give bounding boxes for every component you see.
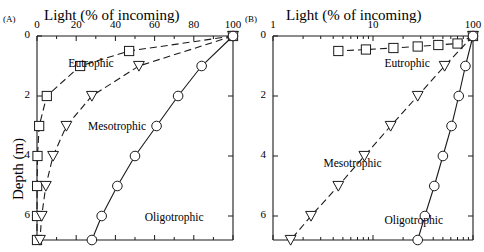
xtick-label: 0 bbox=[34, 18, 40, 30]
data-point-eutrophic bbox=[33, 181, 42, 190]
data-point-oligotrophic bbox=[429, 181, 439, 191]
data-point-oligotrophic bbox=[461, 61, 471, 71]
data-point-mesotrophic bbox=[48, 151, 59, 161]
xtick-label: 10 bbox=[368, 18, 379, 30]
data-point-eutrophic bbox=[434, 40, 443, 49]
figure-root: (A) Light (% of incoming) Depth (m) 0204… bbox=[0, 0, 484, 252]
data-point-oligotrophic bbox=[87, 235, 97, 245]
data-point-oligotrophic bbox=[454, 91, 464, 101]
data-point-oligotrophic bbox=[468, 31, 478, 41]
panel-a: (A) Light (% of incoming) Depth (m) 0204… bbox=[0, 0, 242, 252]
ytick-label: 2 bbox=[261, 88, 267, 100]
ytick-label: 0 bbox=[25, 28, 31, 40]
curve-label-oligotrophic: Oligotrophic bbox=[145, 211, 204, 223]
ytick-label: 2 bbox=[25, 88, 31, 100]
curve-label-oligotrophic: Oligotrophic bbox=[384, 214, 443, 226]
data-point-oligotrophic bbox=[438, 151, 448, 161]
ytick-label: 6 bbox=[261, 208, 267, 220]
data-point-mesotrophic bbox=[61, 121, 72, 131]
panel-b-plot bbox=[242, 0, 484, 252]
data-point-eutrophic bbox=[334, 46, 343, 55]
data-point-eutrophic bbox=[389, 43, 398, 52]
ytick-label: 4 bbox=[261, 148, 267, 160]
data-point-oligotrophic bbox=[173, 91, 183, 101]
data-point-eutrophic bbox=[125, 46, 134, 55]
curve-label-mesotrophic: Mesotrophic bbox=[88, 120, 146, 132]
data-point-oligotrophic bbox=[447, 121, 457, 131]
data-point-oligotrophic bbox=[197, 61, 207, 71]
data-point-oligotrophic bbox=[113, 181, 123, 191]
data-point-oligotrophic bbox=[97, 211, 107, 221]
curve-label-eutrophic: Eutrophic bbox=[68, 57, 113, 69]
data-point-mesotrophic bbox=[333, 181, 344, 191]
data-point-oligotrophic bbox=[130, 151, 140, 161]
xtick-label: 80 bbox=[188, 18, 199, 30]
data-point-oligotrophic bbox=[152, 121, 162, 131]
panel-b: (B) Light (% of incoming) 1101000246Eutr… bbox=[242, 0, 484, 252]
data-point-eutrophic bbox=[33, 151, 42, 160]
ytick-label: 4 bbox=[25, 148, 31, 160]
data-point-oligotrophic bbox=[413, 235, 423, 245]
xtick-label: 20 bbox=[71, 18, 82, 30]
xtick-label: 100 bbox=[465, 18, 482, 30]
ytick-label: 6 bbox=[25, 208, 31, 220]
data-point-eutrophic bbox=[453, 39, 462, 48]
data-point-eutrophic bbox=[361, 45, 370, 54]
xtick-label: 100 bbox=[225, 18, 242, 30]
data-point-eutrophic bbox=[35, 121, 44, 130]
xtick-label: 40 bbox=[110, 18, 121, 30]
ytick-label: 0 bbox=[261, 28, 267, 40]
xtick-label: 1 bbox=[270, 18, 276, 30]
data-point-mesotrophic bbox=[134, 61, 145, 71]
curve-label-mesotrophic: Mesotrophic bbox=[324, 157, 382, 169]
data-point-oligotrophic bbox=[228, 31, 238, 41]
data-point-mesotrophic bbox=[412, 91, 423, 101]
xtick-label: 60 bbox=[149, 18, 160, 30]
data-point-eutrophic bbox=[42, 91, 51, 100]
curve-label-eutrophic: Eutrophic bbox=[384, 57, 429, 69]
data-point-eutrophic bbox=[413, 42, 422, 51]
